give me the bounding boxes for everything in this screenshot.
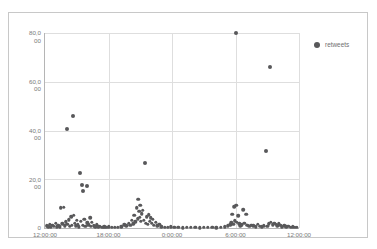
data-point (65, 127, 69, 131)
gridline-vertical (109, 33, 110, 228)
data-point (138, 204, 142, 208)
data-point (58, 225, 61, 228)
data-point (143, 161, 147, 165)
data-point (236, 214, 240, 218)
gridline-vertical (299, 33, 300, 228)
data-point (219, 225, 222, 228)
data-point (189, 226, 192, 229)
data-point (181, 226, 184, 229)
data-point (172, 226, 175, 229)
chart-frame: 020,00040,00060,00080,00012:00:0018:00:0… (8, 12, 368, 238)
data-point (140, 212, 144, 216)
legend-label-retweets: retweets (325, 41, 349, 48)
data-point (206, 226, 209, 229)
data-point (202, 225, 205, 228)
data-point (234, 31, 238, 35)
data-point (134, 220, 137, 223)
data-point (72, 214, 76, 218)
data-point (266, 225, 269, 228)
data-point (215, 226, 218, 229)
y-axis-tick-label: 20,000 (15, 176, 41, 190)
y-axis-tick-label: 40,000 (15, 127, 41, 141)
data-point (71, 114, 75, 118)
data-point (231, 212, 235, 216)
data-point (268, 65, 272, 69)
data-point (141, 209, 145, 213)
data-point (80, 183, 84, 187)
data-point (242, 208, 246, 212)
data-point (185, 225, 188, 228)
data-point (136, 198, 140, 202)
data-point (177, 225, 180, 228)
data-point (81, 189, 85, 193)
y-axis-tick-label: 80,000 (15, 29, 41, 43)
data-point (295, 225, 298, 228)
data-point (75, 219, 78, 222)
legend-marker-retweets-icon (314, 42, 320, 48)
x-axis-tick-label: 12:00:00 (33, 231, 57, 239)
y-axis-tick-label: 60,000 (15, 78, 41, 92)
data-point (198, 226, 201, 229)
data-point (211, 226, 214, 229)
x-axis-tick-label: 6:00:00 (225, 231, 246, 239)
scatter-plot-area: 020,00040,00060,00080,00012:00:0018:00:0… (44, 33, 299, 229)
x-axis-tick-label: 12:00:00 (287, 231, 311, 239)
gridline-vertical (236, 33, 237, 228)
chart-legend: retweets (314, 41, 349, 48)
data-point (78, 171, 82, 175)
x-axis-tick-label: 18:00:00 (96, 231, 120, 239)
x-axis-tick-label: 0:00:00 (162, 231, 183, 239)
gridline-vertical (172, 33, 173, 228)
data-point (194, 226, 197, 229)
data-point (62, 205, 66, 209)
data-point (234, 204, 238, 208)
data-point (146, 222, 149, 225)
data-point (244, 213, 248, 217)
data-point (264, 149, 268, 153)
data-point (85, 184, 89, 188)
